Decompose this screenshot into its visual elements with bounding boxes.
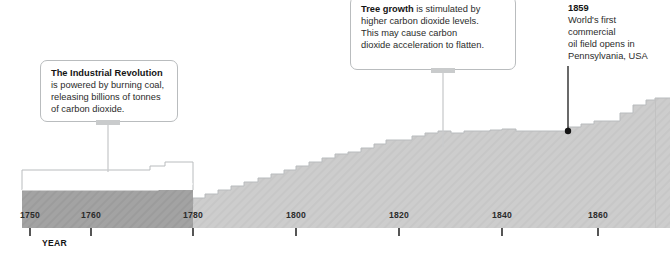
callout-tree-line-2: This may cause carbon (361, 28, 506, 40)
callout-industrial-notch (96, 120, 120, 125)
data-point-marker-1859 (565, 128, 571, 134)
annotation-1859[interactable]: 1859 World's first commercial oil field … (568, 2, 668, 62)
callout-industrial-lead: The Industrial Revolution (51, 68, 163, 78)
axis-title-year: YEAR (42, 238, 67, 248)
annotation-1859-line-3: oil field opens in (568, 38, 668, 50)
annotation-1859-line-1: World's first (568, 14, 668, 26)
callout-tree-line-0-rest: is stimulated by (414, 4, 481, 14)
annotation-1859-line-2: commercial (568, 26, 668, 38)
axis-tick-label-1820: 1820 (389, 210, 409, 220)
callout-industrial-line-2: releasing billions of tonnes (51, 92, 168, 104)
callout-industrial-line-0: The Industrial Revolution (51, 68, 168, 80)
callout-tree-growth[interactable]: Tree growth is stimulated by higher carb… (350, 0, 516, 70)
callout-tree-line-0: Tree growth is stimulated by (361, 4, 506, 16)
axis-tick-marks (30, 228, 598, 236)
callout-tree-line-1: higher carbon dioxide levels. (361, 16, 506, 28)
callout-industrial-line-1: is powered by burning coal, (51, 80, 168, 92)
axis-tick-label-1860: 1860 (588, 210, 608, 220)
callout-tree-line-3: dioxide acceleration to flatten. (361, 40, 506, 52)
axis-tick-label-1840: 1840 (492, 210, 512, 220)
axis-tick-label-1750: 1750 (20, 210, 40, 220)
callout-industrial-line-3: of carbon dioxide. (51, 104, 168, 116)
callout-tree-lead: Tree growth (361, 4, 414, 14)
annotation-1859-line-4: Pennsylvania, USA (568, 50, 668, 62)
axis-tick-label-1760: 1760 (81, 210, 101, 220)
callout-tree-notch (431, 68, 455, 73)
figure-canvas: The Industrial Revolution is powered by … (0, 0, 670, 256)
axis-tick-label-1780: 1780 (183, 210, 203, 220)
axis-tick-label-1800: 1800 (286, 210, 306, 220)
callout-industrial-revolution[interactable]: The Industrial Revolution is powered by … (40, 60, 178, 122)
annotation-1859-year: 1859 (568, 2, 668, 14)
